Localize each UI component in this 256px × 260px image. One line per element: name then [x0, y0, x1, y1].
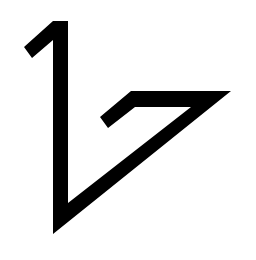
logo-canvas: 1-7 monogram mark	[0, 0, 256, 260]
logo-mark-icon	[0, 0, 256, 260]
